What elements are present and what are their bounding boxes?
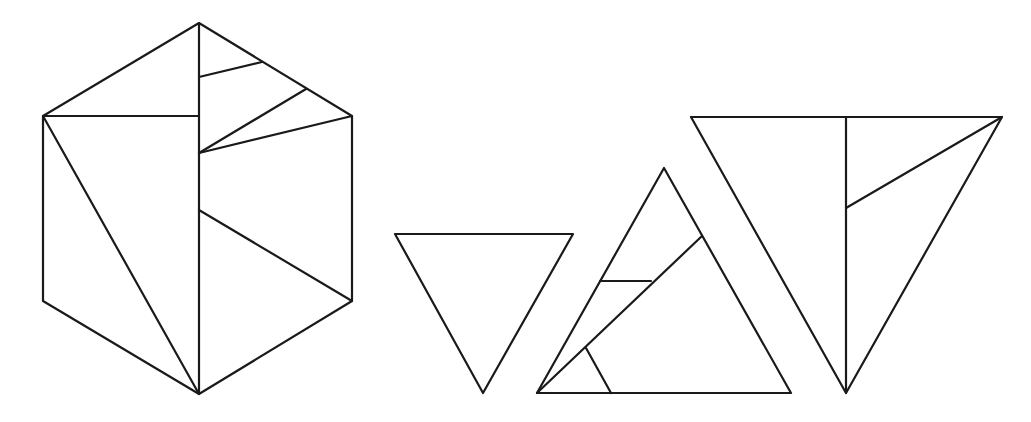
hexagon-outline bbox=[43, 23, 352, 394]
dissection-diagram bbox=[0, 0, 1031, 422]
hexagon-shape bbox=[43, 23, 352, 394]
small-triangle-shape bbox=[395, 234, 573, 393]
small-triangle-outline bbox=[395, 234, 573, 393]
